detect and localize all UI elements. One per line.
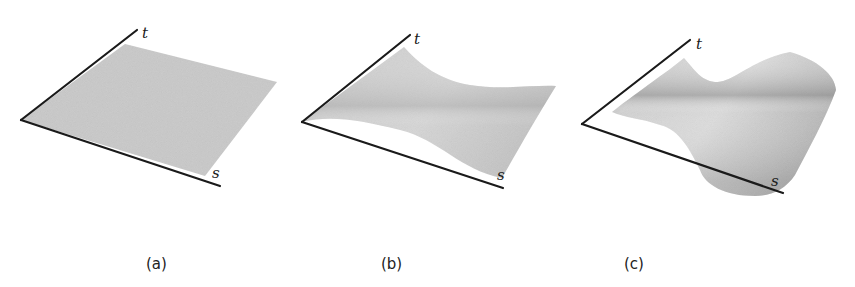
panel-c: t s (582, 35, 836, 196)
figure-canvas: t s t s t s (0, 0, 855, 287)
s-axis-label: s (212, 164, 220, 182)
caption-a: (a) (146, 255, 167, 273)
t-axis-label: t (696, 35, 703, 53)
t-axis-label: t (414, 30, 421, 48)
flat-surface (21, 44, 277, 176)
caption-b: (b) (381, 255, 402, 273)
saddle-shading (302, 47, 556, 178)
caption-c: (c) (624, 255, 644, 273)
s-axis-label: s (497, 166, 505, 184)
panel-b: t s (302, 30, 556, 188)
t-axis-label: t (142, 24, 149, 42)
panel-a: t s (21, 24, 277, 186)
s-axis-label: s (771, 172, 779, 190)
